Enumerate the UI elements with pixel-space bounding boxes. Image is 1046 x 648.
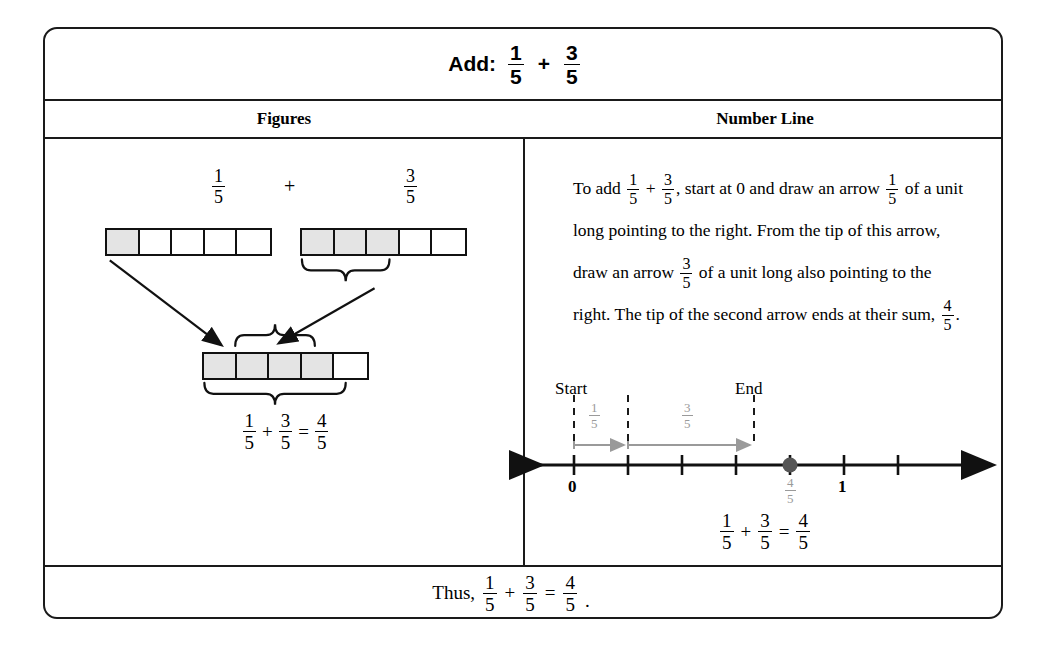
- fraction-bar-2: [300, 228, 467, 256]
- nl-eq-b: 3 5: [758, 511, 772, 552]
- fraction-bar-1: [105, 228, 272, 256]
- number-line-graphic: Start End 1 5 3 5: [525, 379, 1005, 509]
- title-fraction-1: 1 5: [508, 42, 524, 87]
- arrow2-fraction-label: 3 5: [680, 401, 695, 430]
- bar2-cell-2: [335, 230, 368, 254]
- bar2-cell-5: [432, 230, 465, 254]
- bar2-fraction-label: 3 5: [402, 167, 419, 206]
- explain-seg-1: To add: [573, 178, 621, 198]
- nl-eq-sum: 4 5: [796, 511, 810, 552]
- end-label: End: [735, 379, 762, 399]
- arrow-bar1-to-result: [110, 260, 221, 345]
- title-fraction-2: 3 5: [564, 42, 580, 87]
- conclusion-equals: =: [545, 582, 556, 604]
- figures-eq-plus: +: [262, 421, 273, 443]
- bar2-cell-3: [367, 230, 400, 254]
- arrow1-fraction-label: 1 5: [587, 401, 602, 430]
- number-line-panel: To add 1 5 + 3 5 , start at 0 and draw a…: [525, 139, 1005, 565]
- explain-fraction-1: 1 5: [627, 172, 639, 207]
- title-row: Add: 1 5 + 3 5: [45, 29, 1001, 101]
- figures-equation: 1 5 + 3 5 = 4 5: [202, 411, 369, 452]
- brace-result-top: [235, 324, 315, 346]
- figures-eq-equals: =: [298, 421, 309, 443]
- bar1-cell-5: [237, 230, 270, 254]
- column-header-row: Figures Number Line: [45, 101, 1001, 139]
- arrow-bar2-to-result: [279, 288, 375, 343]
- conclusion-row: Thus, 1 5 + 3 5 = 4 5 .: [45, 567, 1001, 619]
- lesson-card: Add: 1 5 + 3 5 Figures Number Line 1 5: [43, 27, 1003, 619]
- explain-fraction-3: 1 5: [886, 172, 898, 207]
- explain-seg-3: , start at 0 and draw an arrow: [676, 178, 880, 198]
- nl-eq-equals: =: [779, 521, 790, 543]
- bar2-cell-4: [400, 230, 433, 254]
- result-cell-3: [269, 354, 302, 378]
- brace-result-bottom: [204, 383, 345, 405]
- brace-bar2: [302, 259, 390, 281]
- number-line-svg: [525, 379, 1005, 509]
- bar1-cell-2: [140, 230, 173, 254]
- body-row: 1 5 + 3 5: [45, 139, 1001, 567]
- tick-label-one: 1: [838, 477, 847, 497]
- result-cell-5: [334, 354, 367, 378]
- explain-fraction-5: 4 5: [942, 298, 954, 333]
- title-operator: +: [536, 52, 552, 76]
- figures-eq-sum: 4 5: [315, 411, 329, 452]
- explain-seg-2: +: [646, 178, 656, 198]
- figures-panel: 1 5 + 3 5: [45, 139, 523, 565]
- result-cell-1: [204, 354, 237, 378]
- explain-fraction-2: 3 5: [662, 172, 674, 207]
- nl-eq-a: 1 5: [720, 511, 734, 552]
- sum-point-marker: [783, 458, 798, 473]
- conclusion-expression: Thus, 1 5 + 3 5 = 4 5 .: [432, 573, 589, 614]
- bar2-cell-1: [302, 230, 335, 254]
- explain-seg-6: .: [956, 304, 960, 324]
- conclusion-period: .: [585, 590, 590, 614]
- result-cell-4: [302, 354, 335, 378]
- column-header-number-line: Number Line: [525, 101, 1005, 137]
- figures-plus-sign: +: [284, 175, 295, 198]
- figures-eq-a: 1 5: [243, 411, 257, 452]
- conclusion-lead: Thus,: [432, 582, 475, 604]
- result-cell-2: [237, 354, 270, 378]
- bar1-fraction-label: 1 5: [210, 167, 227, 206]
- conclusion-plus: +: [505, 582, 516, 604]
- conclusion-a: 1 5: [483, 573, 497, 614]
- explanation-text: To add 1 5 + 3 5 , start at 0 and draw a…: [573, 167, 973, 335]
- sum-point-label: 4 5: [783, 476, 798, 505]
- number-line-equation: 1 5 + 3 5 = 4 5: [525, 511, 1005, 552]
- fraction-bar-result: [202, 352, 369, 380]
- explain-fraction-4: 3 5: [680, 256, 692, 291]
- tick-label-zero: 0: [568, 477, 577, 497]
- conclusion-b: 3 5: [523, 573, 537, 614]
- title-label: Add:: [448, 52, 496, 76]
- bar1-cell-1: [107, 230, 140, 254]
- nl-eq-plus: +: [741, 521, 752, 543]
- conclusion-sum: 4 5: [563, 573, 577, 614]
- start-label: Start: [555, 379, 587, 399]
- title-expression: Add: 1 5 + 3 5: [448, 42, 581, 87]
- bar1-cell-3: [172, 230, 205, 254]
- column-header-figures: Figures: [45, 101, 523, 137]
- bar1-cell-4: [205, 230, 238, 254]
- figures-eq-b: 3 5: [279, 411, 293, 452]
